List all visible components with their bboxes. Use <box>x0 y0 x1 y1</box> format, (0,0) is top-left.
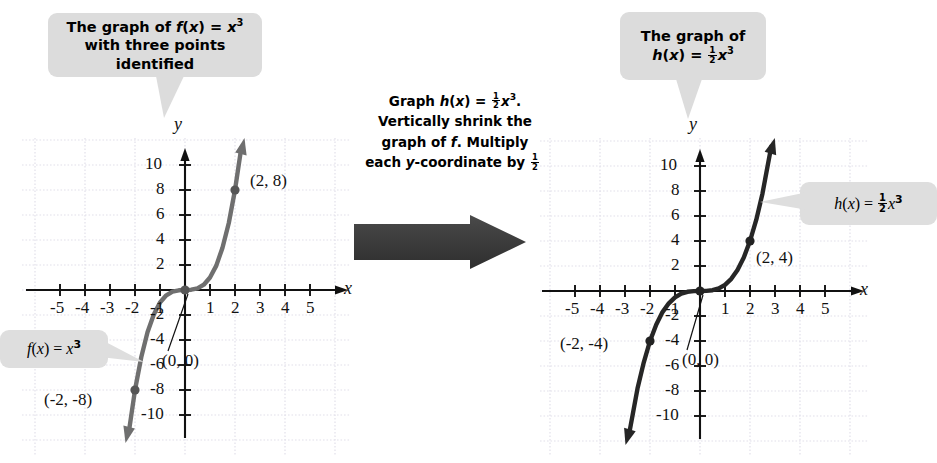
left-xtick-2: 2 <box>231 298 240 318</box>
right-ytick-neg10: -10 <box>656 405 679 425</box>
left-xtick-neg3: -3 <box>100 298 114 318</box>
right-ytick-8: 8 <box>671 180 680 200</box>
right-xtick-4: 4 <box>796 299 805 319</box>
instruction-line-3: graph of f. Multiply <box>364 132 546 153</box>
callout-right-top-line1: The graph of <box>641 28 745 44</box>
point-2-4 <box>745 236 754 245</box>
callout-h-label-tail <box>758 188 808 220</box>
callout-right-top-tail <box>672 77 728 121</box>
right-ytick-4: 4 <box>671 230 680 250</box>
right-xtick-1: 1 <box>721 299 730 319</box>
right-point-label-0-0: (0, 0) <box>682 350 719 370</box>
callout-right-top: The graph of h(x) = 12x3 <box>620 12 766 80</box>
point-2-8 <box>230 185 239 194</box>
right-ytick-6: 6 <box>671 205 680 225</box>
left-xtick-neg4: -4 <box>75 298 89 318</box>
left-plot: x y 10 8 6 4 2 -2 -4 -6 -8 -10 -5 -4 -3 … <box>22 138 350 455</box>
right-ytick-neg4: -4 <box>665 330 679 350</box>
transformation-instruction: Graph h(x) = 12x3. Vertically shrink the… <box>364 90 546 173</box>
left-point-label-0-0: (0, 0) <box>162 351 199 371</box>
callout-f-label-text: f(x) = x3 <box>27 338 81 360</box>
left-xtick-1: 1 <box>206 298 215 318</box>
instruction-line-1: Graph h(x) = 12x3. <box>364 90 546 111</box>
figure-canvas: The graph of f(x) = x3 with three points… <box>0 0 937 463</box>
right-point-label-neg2-neg4: (-2, -4) <box>560 334 608 354</box>
callout-left-top-line2: with three points identified <box>85 37 226 72</box>
transition-arrow-icon <box>354 215 526 269</box>
left-xtick-5: 5 <box>306 298 315 318</box>
right-xtick-neg1: -1 <box>665 299 679 319</box>
right-xtick-neg3: -3 <box>615 299 629 319</box>
callout-left-top-line1: The graph of f(x) = x3 <box>67 19 244 35</box>
point-neg2-neg8 <box>130 385 139 394</box>
callout-f-label-tail <box>100 336 148 366</box>
curve-h-arrow-down <box>624 428 636 445</box>
left-x-axis-label: x <box>344 278 352 299</box>
right-ytick-neg8: -8 <box>665 380 679 400</box>
instruction-line-4: each y-coordinate by 12. <box>364 152 546 173</box>
left-ytick-2: 2 <box>156 254 165 274</box>
right-xtick-3: 3 <box>771 299 780 319</box>
left-xtick-neg5: -5 <box>50 298 64 318</box>
left-ytick-10: 10 <box>145 154 162 174</box>
right-point-label-2-4: (2, 4) <box>756 248 793 268</box>
instruction-line-2: Vertically shrink the <box>364 111 546 132</box>
left-ytick-8: 8 <box>156 179 165 199</box>
right-xtick-neg2: -2 <box>640 299 654 319</box>
left-ytick-neg8: -8 <box>150 379 164 399</box>
left-ytick-6: 6 <box>156 204 165 224</box>
right-xtick-2: 2 <box>746 299 755 319</box>
curve-h-arrow-up <box>765 138 777 155</box>
right-y-axis-label: y <box>689 114 697 135</box>
left-xtick-neg2: -2 <box>125 298 139 318</box>
callout-h-label: h(x) = 12x3 <box>800 182 937 225</box>
point-0-0 <box>180 285 189 294</box>
left-xtick-3: 3 <box>256 298 265 318</box>
left-xtick-4: 4 <box>281 298 290 318</box>
callout-left-top: The graph of f(x) = x3 with three points… <box>48 13 262 77</box>
right-xtick-neg5: -5 <box>565 299 579 319</box>
left-y-axis-label: y <box>174 114 182 135</box>
point-neg2-neg4 <box>645 336 654 345</box>
callout-right-top-line2: h(x) = 12x3 <box>652 47 734 63</box>
left-ytick-neg4: -4 <box>150 329 164 349</box>
left-point-label-2-8: (2, 8) <box>250 171 287 191</box>
curve-f-arrow-up <box>235 138 246 156</box>
curve-f-arrow-down <box>123 426 134 444</box>
right-ytick-neg6: -6 <box>665 355 679 375</box>
left-ytick-4: 4 <box>156 229 165 249</box>
right-xtick-neg4: -4 <box>590 299 604 319</box>
right-x-axis-label: x <box>860 279 868 300</box>
left-point-label-neg2-neg8: (-2, -8) <box>44 390 92 410</box>
callout-h-label-text: h(x) = 12x3 <box>834 193 902 215</box>
right-xtick-5: 5 <box>821 299 830 319</box>
left-xtick-neg1: -1 <box>150 298 164 318</box>
left-ytick-neg10: -10 <box>141 404 164 424</box>
right-ytick-10: 10 <box>660 155 677 175</box>
point-0-0 <box>695 286 704 295</box>
callout-f-label: f(x) = x3 <box>0 330 108 368</box>
right-ytick-2: 2 <box>671 255 680 275</box>
